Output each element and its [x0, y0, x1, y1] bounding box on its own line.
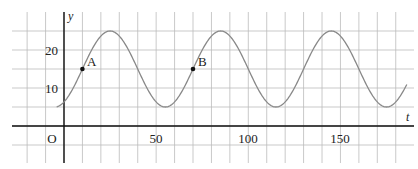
y-tick-label: 20: [45, 43, 58, 58]
point-b: [191, 67, 196, 72]
y-axis-label: y: [67, 9, 74, 23]
y-tick-label: 10: [45, 81, 58, 96]
x-tick-label: 100: [238, 131, 258, 146]
point-a: [80, 67, 85, 72]
point-b-label: B: [198, 54, 207, 69]
point-a-label: A: [87, 54, 97, 69]
chart: y t O 50 100 150 20 10 A B: [0, 0, 418, 169]
origin-label: O: [47, 131, 56, 146]
t-axis-label: t: [406, 110, 410, 124]
x-tick-label: 50: [150, 131, 163, 146]
x-tick-label: 150: [330, 131, 350, 146]
